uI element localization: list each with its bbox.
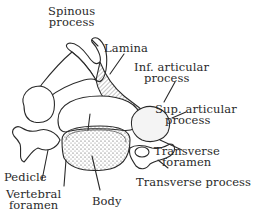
label-spinous-process: Spinous process — [48, 6, 95, 28]
label-vertebral-foramen: Vertebral foramen — [6, 189, 61, 211]
label-line: process — [155, 115, 237, 126]
label-transverse-foramen: Transverse foramen — [154, 146, 220, 168]
label-inf-articular-process: Inf. articular process — [134, 62, 209, 84]
label-line: process — [134, 73, 209, 84]
label-lamina: Lamina — [104, 43, 148, 54]
vertebra-diagram: Spinous process Lamina Inf. articular pr… — [0, 0, 268, 221]
label-transverse-process: Transverse process — [136, 177, 251, 188]
label-pedicle: Pedicle — [4, 172, 47, 183]
label-line: process — [48, 17, 95, 28]
label-body: Body — [92, 196, 122, 207]
label-line: foramen — [154, 157, 220, 168]
label-line: foramen — [6, 200, 61, 211]
left-articular-shape — [23, 86, 55, 123]
label-sup-articular-process: Sup. articular process — [155, 104, 237, 126]
